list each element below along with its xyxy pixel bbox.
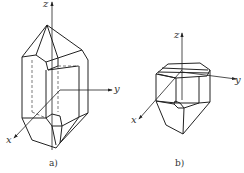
caption-b: b): [175, 158, 184, 168]
axis-label-y-a: y: [114, 83, 120, 94]
axis-label-x-b: x: [131, 114, 137, 125]
axis-label-y-b: y: [235, 74, 241, 85]
axis-label-z-a: z: [43, 0, 48, 9]
crystal-diagram: [0, 0, 244, 173]
crystal-b: [139, 33, 236, 134]
crystal-a: [14, 2, 112, 150]
axis-label-z-b: z: [174, 29, 179, 40]
axis-label-x-a: x: [6, 134, 12, 145]
caption-a: a): [49, 158, 58, 168]
